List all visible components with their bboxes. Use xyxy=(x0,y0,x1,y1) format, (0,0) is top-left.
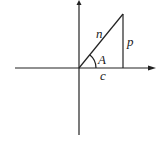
label-opposite: p xyxy=(126,34,134,49)
x-axis-arrowhead xyxy=(148,66,156,71)
label-angle: A xyxy=(97,52,106,67)
angle-arc xyxy=(90,55,96,68)
label-adjacent: c xyxy=(100,68,106,83)
triangle-diagram: n p A c xyxy=(0,0,164,147)
y-axis-arrowhead xyxy=(77,0,82,5)
label-hypotenuse: n xyxy=(96,26,103,41)
